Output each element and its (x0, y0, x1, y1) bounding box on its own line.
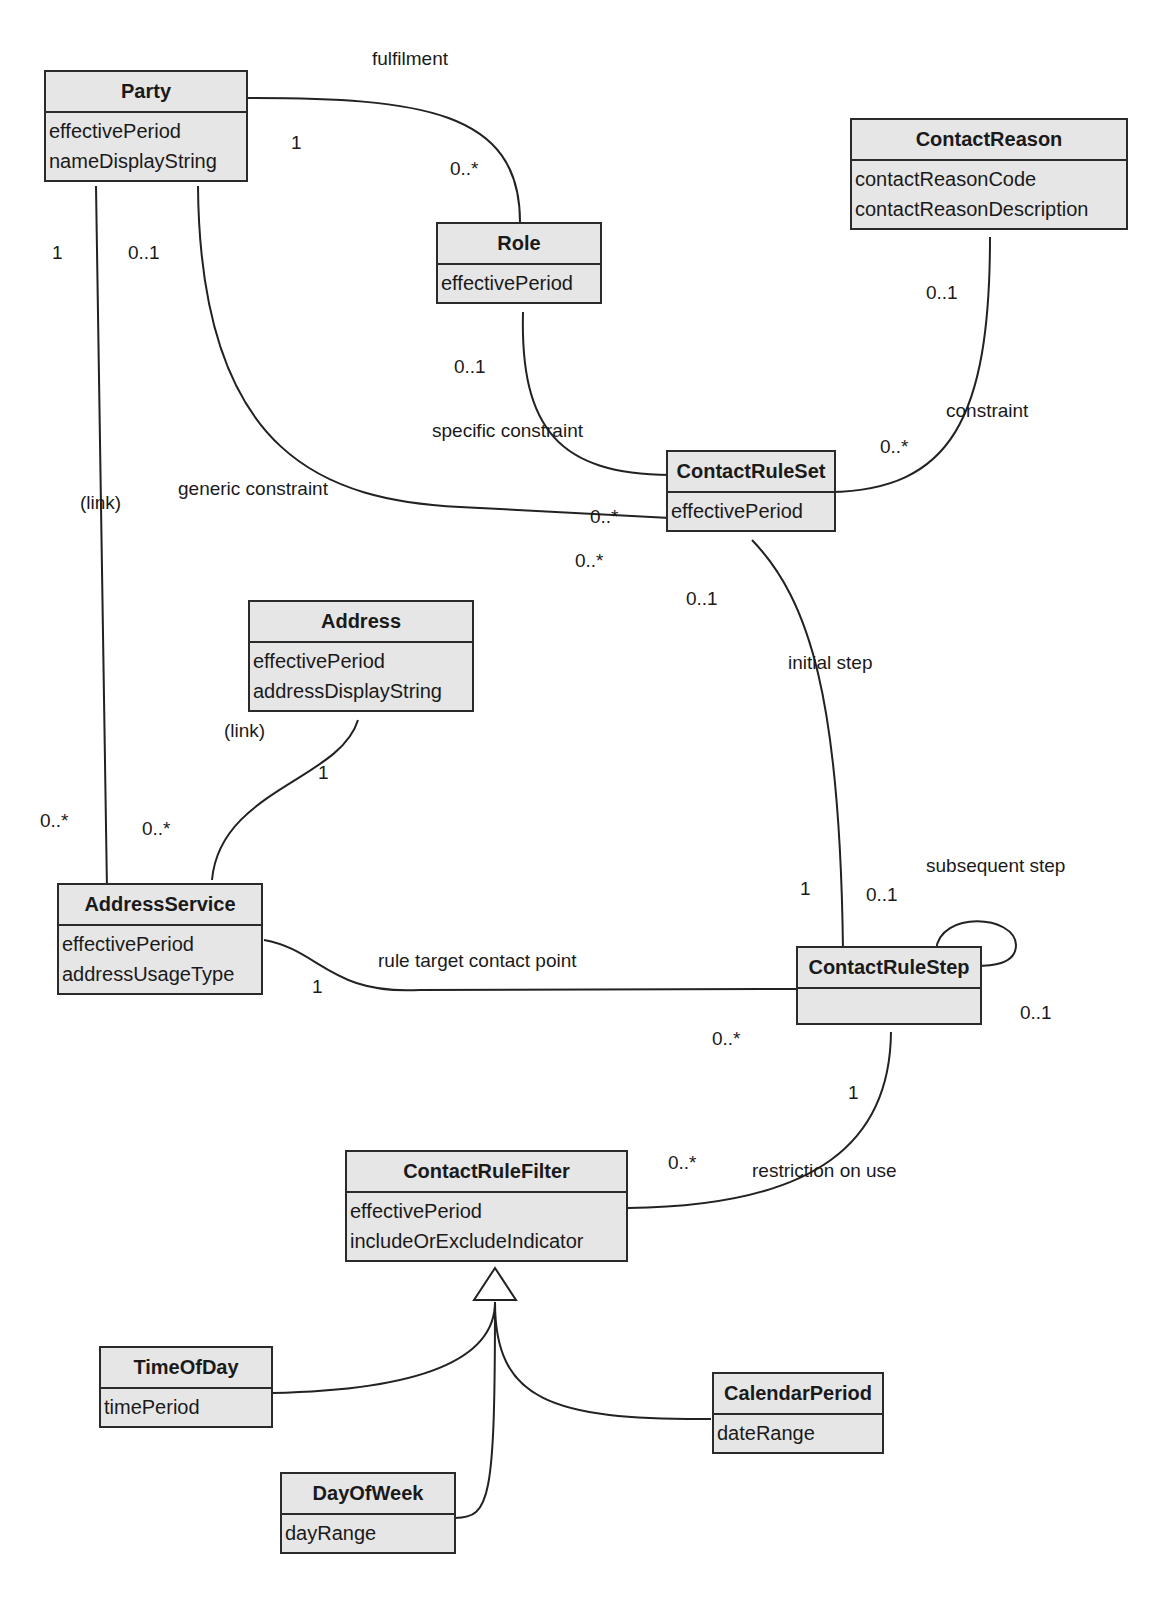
attribute: effectivePeriod (62, 929, 259, 959)
assoc-label-specific-constraint: specific constraint (432, 420, 583, 442)
class-name: ContactRuleSet (668, 452, 834, 493)
address-link-line (212, 720, 358, 880)
class-attributes: effectivePeriod nameDisplayString (46, 113, 246, 180)
attribute: contactReasonDescription (855, 194, 1124, 224)
mult-restriction-filter: 0..* (668, 1152, 697, 1174)
class-party[interactable]: Party effectivePeriod nameDisplayString (44, 70, 248, 182)
mult-specific-role: 0..1 (454, 356, 486, 378)
mult-initial-rule-set: 0..1 (686, 588, 718, 610)
gen-calendarperiod-line (495, 1302, 711, 1419)
mult-party-link-addressservice: 0..* (40, 810, 69, 832)
class-contact-rule-step[interactable]: ContactRuleStep (796, 946, 982, 1025)
class-name: DayOfWeek (282, 1474, 454, 1515)
mult-address-link-address: 1 (318, 762, 329, 784)
class-name: Role (438, 224, 600, 265)
mult-constraint-reason: 0..1 (926, 282, 958, 304)
party-addressservice-link-line (96, 186, 107, 890)
fulfilment-line (248, 98, 520, 222)
class-name: Party (46, 72, 246, 113)
class-attributes: effectivePeriod (668, 493, 834, 530)
mult-generic-rule-set: 0..* (590, 506, 619, 528)
mult-rule-target-addressservice: 1 (312, 976, 323, 998)
class-role[interactable]: Role effectivePeriod (436, 222, 602, 304)
class-attributes: effectivePeriod addressUsageType (59, 926, 261, 993)
attribute: effectivePeriod (253, 646, 470, 676)
mult-restriction-rule-step: 1 (848, 1082, 859, 1104)
attribute: dayRange (285, 1518, 452, 1548)
class-attributes: contactReasonCode contactReasonDescripti… (852, 161, 1126, 228)
assoc-label-fulfilment: fulfilment (372, 48, 448, 70)
attribute: addressUsageType (62, 959, 259, 989)
attribute: effectivePeriod (441, 268, 598, 298)
assoc-label-restriction-on-use: restriction on use (752, 1160, 897, 1182)
class-address[interactable]: Address effectivePeriod addressDisplaySt… (248, 600, 474, 712)
class-name: ContactRuleStep (798, 948, 980, 989)
gen-dayofweek-line (455, 1302, 495, 1518)
class-name: Address (250, 602, 472, 643)
attribute: dateRange (717, 1418, 880, 1448)
mult-constraint-rule-set: 0..* (880, 436, 909, 458)
initial-step-line (752, 540, 843, 950)
assoc-label-party-link: (link) (80, 492, 121, 514)
class-contact-rule-filter[interactable]: ContactRuleFilter effectivePeriod includ… (345, 1150, 628, 1262)
assoc-label-initial-step: initial step (788, 652, 873, 674)
class-contact-reason[interactable]: ContactReason contactReasonCode contactR… (850, 118, 1128, 230)
mult-generic-rule-set-2: 0..* (575, 550, 604, 572)
mult-address-link-addressservice: 0..* (142, 818, 171, 840)
attribute: effectivePeriod (49, 116, 244, 146)
class-name: TimeOfDay (101, 1348, 271, 1389)
assoc-label-address-link: (link) (224, 720, 265, 742)
attribute: includeOrExcludeIndicator (350, 1226, 624, 1256)
mult-rule-target-rule-step: 0..* (712, 1028, 741, 1050)
class-name: ContactReason (852, 120, 1126, 161)
specific-constraint-line (523, 312, 670, 475)
class-contact-rule-set[interactable]: ContactRuleSet effectivePeriod (666, 450, 836, 532)
mult-initial-rule-step: 1 (800, 878, 811, 900)
mult-subsequent-from: 0..1 (866, 884, 898, 906)
attribute: effectivePeriod (350, 1196, 624, 1226)
mult-party-link: 1 (52, 242, 63, 264)
mult-generic-party: 0..1 (128, 242, 160, 264)
gen-timeofday-line (272, 1302, 495, 1393)
mult-fulfilment-party: 1 (291, 132, 302, 154)
class-calendar-period[interactable]: CalendarPeriod dateRange (712, 1372, 884, 1454)
attribute: timePeriod (104, 1392, 269, 1422)
class-attributes: timePeriod (101, 1389, 271, 1426)
class-name: CalendarPeriod (714, 1374, 882, 1415)
assoc-label-constraint: constraint (946, 400, 1028, 422)
class-attributes: dayRange (282, 1515, 454, 1552)
class-attributes: dateRange (714, 1415, 882, 1452)
mult-subsequent-to: 0..1 (1020, 1002, 1052, 1024)
assoc-label-subsequent-step: subsequent step (926, 855, 1065, 877)
attribute: contactReasonCode (855, 164, 1124, 194)
assoc-label-generic-constraint: generic constraint (178, 478, 328, 500)
assoc-label-rule-target: rule target contact point (378, 950, 577, 972)
attribute: effectivePeriod (671, 496, 832, 526)
attribute: addressDisplayString (253, 676, 470, 706)
class-name: ContactRuleFilter (347, 1152, 626, 1193)
class-attributes: effectivePeriod includeOrExcludeIndicato… (347, 1193, 626, 1260)
generalization-arrow-icon (474, 1268, 516, 1300)
mult-fulfilment-role: 0..* (450, 158, 479, 180)
attribute: nameDisplayString (49, 146, 244, 176)
class-time-of-day[interactable]: TimeOfDay timePeriod (99, 1346, 273, 1428)
class-address-service[interactable]: AddressService effectivePeriod addressUs… (57, 883, 263, 995)
class-attributes: effectivePeriod addressDisplayString (250, 643, 472, 710)
constraint-line (830, 237, 990, 492)
class-attributes (798, 989, 980, 1023)
class-name: AddressService (59, 885, 261, 926)
class-day-of-week[interactable]: DayOfWeek dayRange (280, 1472, 456, 1554)
class-attributes: effectivePeriod (438, 265, 600, 302)
